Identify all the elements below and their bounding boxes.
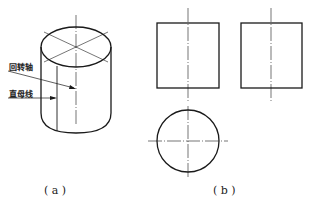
figure-a-caption: ( a ) (44, 184, 66, 197)
figure-b-caption: ( b ) (213, 184, 236, 197)
side-view (241, 8, 302, 102)
diagram-canvas (0, 0, 310, 212)
cylinder-isometric (8, 15, 111, 133)
top-view (148, 106, 228, 177)
axis-of-revolution-label: 回转轴 (9, 61, 33, 72)
front-view (157, 8, 219, 102)
straight-generatrix-label: 直母线 (9, 88, 33, 99)
